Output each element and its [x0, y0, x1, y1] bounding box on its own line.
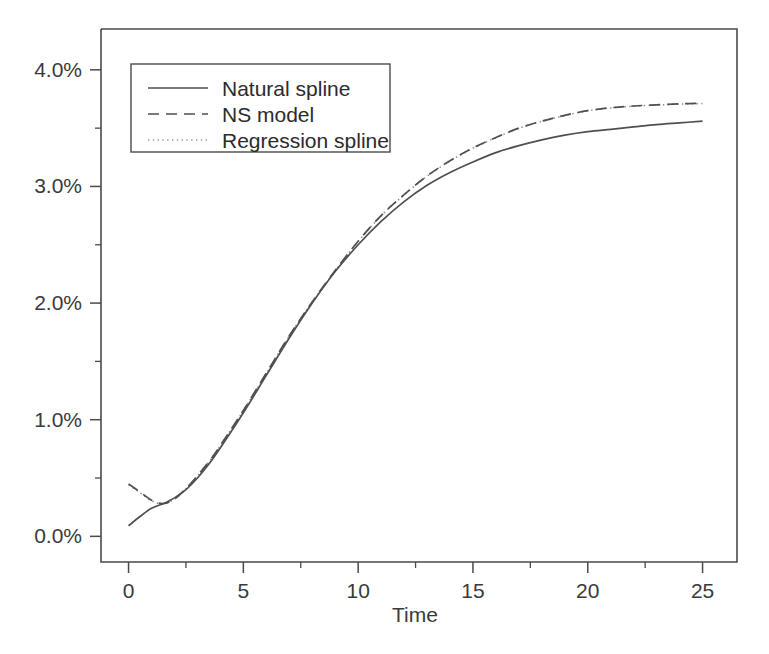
y-tick-label: 3.0% — [34, 174, 82, 197]
legend-label: NS model — [222, 103, 314, 126]
y-tick-label: 1.0% — [34, 408, 82, 431]
legend-label: Natural spline — [222, 77, 350, 100]
chart-figure: 0.0%1.0%2.0%3.0%4.0% 0510152025 Time Nat… — [0, 0, 769, 654]
y-tick-label: 4.0% — [34, 58, 82, 81]
x-tick-label: 10 — [346, 579, 369, 602]
y-tick-label: 0.0% — [34, 524, 82, 547]
y-tick-label: 2.0% — [34, 291, 82, 314]
x-tick-label: 20 — [576, 579, 599, 602]
x-tick-label: 25 — [691, 579, 714, 602]
legend-label: Regression spline — [222, 129, 389, 152]
x-tick-label: 15 — [461, 579, 484, 602]
chart-legend: Natural splineNS modelRegression spline — [131, 64, 390, 152]
x-tick-label: 5 — [238, 579, 250, 602]
line-chart: 0.0%1.0%2.0%3.0%4.0% 0510152025 Time Nat… — [0, 0, 769, 654]
x-axis-title: Time — [392, 603, 438, 626]
x-tick-label: 0 — [123, 579, 135, 602]
